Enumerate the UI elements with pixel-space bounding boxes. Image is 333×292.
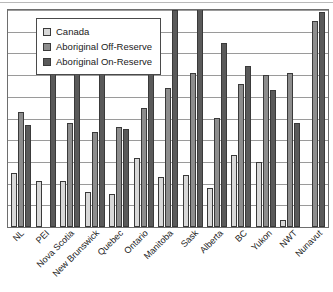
bar-group [9, 10, 33, 227]
bar [60, 181, 66, 227]
bar [238, 84, 244, 227]
bar [190, 73, 196, 227]
x-axis-labels: NLPEINova ScotiaNew BrunswickQuebecOntar… [7, 228, 329, 290]
legend-item: Canada [43, 24, 152, 39]
bar [123, 129, 129, 227]
bar [221, 43, 227, 227]
bar [116, 127, 122, 227]
legend-item: Aboriginal Off-Reserve [43, 39, 152, 54]
bar [312, 21, 318, 227]
bar [109, 194, 115, 227]
bar [85, 192, 91, 227]
legend-label: Aboriginal On-Reserve [56, 56, 152, 67]
bar [11, 173, 17, 227]
bar [207, 188, 213, 227]
bar [134, 158, 140, 227]
bar-group [229, 10, 253, 227]
x-axis-tick-label: Quebec [96, 228, 125, 257]
bar [256, 162, 262, 227]
bar-chart: CanadaAboriginal Off-ReserveAboriginal O… [0, 0, 333, 292]
x-axis-tick-label: NL [11, 228, 26, 243]
x-axis-tick-label: NWT [277, 228, 299, 250]
bar [319, 12, 325, 227]
bar-group [303, 10, 327, 227]
bar-group [254, 10, 278, 227]
x-axis-tick-label: Alberta [197, 228, 224, 255]
bar-group [278, 10, 302, 227]
x-axis-tick-label: Yukon [249, 228, 274, 253]
bar [92, 132, 98, 227]
bar [197, 9, 203, 227]
bar-group [205, 10, 229, 227]
bar [36, 181, 42, 227]
bar [294, 123, 300, 227]
bar [231, 155, 237, 227]
legend-swatch-icon [43, 28, 51, 36]
bar [280, 220, 286, 227]
bar [165, 88, 171, 227]
bar [270, 90, 276, 227]
legend-item: Aboriginal On-Reserve [43, 54, 152, 69]
bar [67, 123, 73, 227]
bar [18, 112, 24, 227]
x-axis-tick-label: BC [233, 228, 249, 244]
bar [214, 118, 220, 227]
chart-legend: CanadaAboriginal Off-ReserveAboriginal O… [36, 18, 161, 75]
bar [287, 73, 293, 227]
bar-group [180, 10, 204, 227]
legend-label: Canada [56, 26, 89, 37]
bar [263, 75, 269, 227]
legend-swatch-icon [43, 58, 51, 66]
bar [158, 177, 164, 227]
x-axis-tick-label: PEI [34, 228, 51, 245]
bar [245, 66, 251, 227]
bar [183, 175, 189, 227]
legend-swatch-icon [43, 43, 51, 51]
bar [74, 49, 80, 227]
bar [141, 108, 147, 227]
bar [25, 125, 31, 227]
top-rule-divider [0, 2, 333, 3]
legend-label: Aboriginal Off-Reserve [56, 41, 152, 52]
x-axis-tick-label: Sask [179, 228, 200, 249]
bar [172, 10, 178, 227]
